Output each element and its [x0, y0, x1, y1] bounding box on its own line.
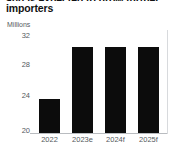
x-axis-labels: 2022 2023e 2024f 2025f — [33, 135, 164, 149]
chart-plot-area: 32 28 24 20 — [0, 30, 172, 134]
y-tick-label-20: 20 — [0, 127, 30, 135]
bar-2023e[interactable] — [72, 47, 93, 133]
x-tick-label-2023e: 2023e — [66, 135, 99, 144]
bar-slot-2022 — [33, 30, 66, 133]
bar-2025f[interactable] — [138, 47, 159, 133]
bar-slot-2024f — [99, 30, 132, 133]
y-tick-label-28: 28 — [0, 61, 30, 69]
bar-series — [33, 30, 164, 133]
right-axis-spine — [167, 30, 168, 134]
y-tick-label-32: 32 — [0, 32, 30, 40]
title-clipped-line: and is expected to grow further — [6, 0, 159, 1]
y-axis-unit-label: Millions — [7, 21, 30, 28]
x-axis-line — [30, 133, 168, 134]
page-title: importers — [6, 2, 53, 14]
bar-slot-2025f — [132, 30, 165, 133]
bar-2022[interactable] — [39, 99, 60, 133]
bar-slot-2023e — [66, 30, 99, 133]
y-tick-label-24: 24 — [0, 92, 30, 100]
x-tick-label-2022: 2022 — [33, 135, 66, 144]
x-tick-label-2024f: 2024f — [99, 135, 132, 144]
bar-2024f[interactable] — [105, 47, 126, 133]
x-tick-label-2025f: 2025f — [132, 135, 165, 144]
